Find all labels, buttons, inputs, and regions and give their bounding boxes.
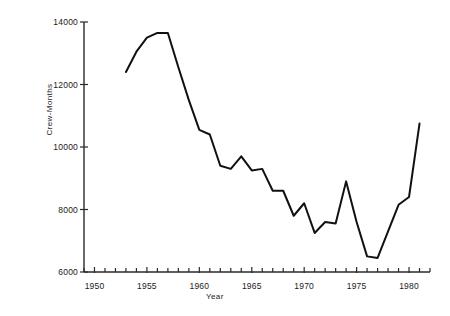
plot-area: [0, 0, 450, 316]
series-line-0: [126, 33, 420, 258]
data-series-group: [126, 33, 420, 258]
axis-lines: [84, 22, 430, 272]
line-chart: Crew-Months Year 14000 12000 10000 8000 …: [0, 0, 450, 316]
